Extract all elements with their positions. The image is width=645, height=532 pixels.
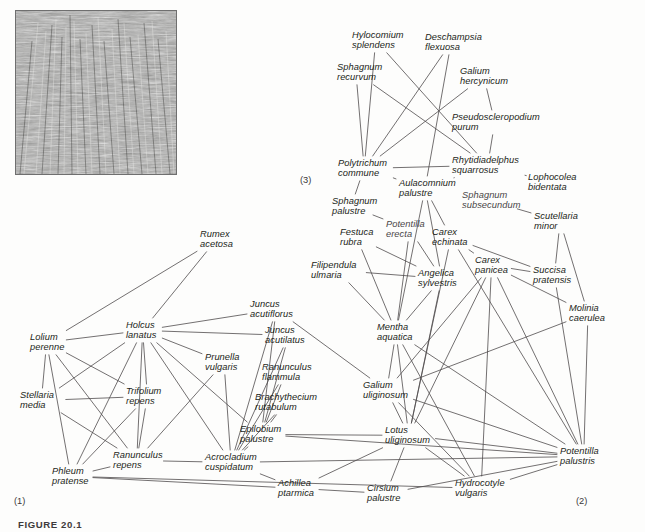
association-edge [487,89,492,110]
association-edge [93,467,110,471]
species-label-lophocolea-bidentata: Lophocolea bidentata [528,172,577,193]
association-edge [490,135,493,153]
species-label-holcus-lanatus: Holcus lanatus [126,320,156,341]
association-edge [59,343,124,388]
association-edge [93,478,275,488]
species-label-stellaria-media: Stellaria media [20,390,54,411]
species-label-brachythecium-rutabulum: Brachythecium rutabulum [255,392,317,413]
species-label-trifolium-repens: Trifolium repens [126,386,161,407]
species-label-hylocomium-splendens: Hylocomium splendens [352,30,404,51]
association-edge [511,269,530,272]
species-label-sphagnum-recurvum: Sphagnum recurvum [337,62,382,83]
association-edge [144,343,147,384]
species-label-aulacomnium-palustre: Aulacomnium palustre [399,178,456,199]
species-label-pseudoscleropodium-purum: Pseudoscleropodium purum [452,112,540,133]
association-edge [389,345,394,378]
association-edge [426,448,465,476]
species-label-juncus-acutiflorus: Juncus acutiflorus [250,299,293,320]
association-edge [225,375,230,450]
species-label-cirsium-palustre: Cirsium palustre [367,483,400,504]
association-edge [556,234,559,263]
species-label-mentha-aquatica: Mentha aquatica [377,322,413,343]
association-edge [162,314,247,327]
association-edge [319,448,383,478]
association-edge [376,247,416,266]
species-label-acrocladium-cuspidatum: Acrocladium cuspidatum [205,452,257,473]
association-edge [43,355,46,388]
species-label-rumex-acetosa: Rumex acetosa [200,229,233,250]
species-label-angelica-sylvestris: Angelica sylvestris [418,268,457,289]
association-edge [403,345,475,476]
association-edge [260,457,557,462]
association-edge [355,181,360,194]
species-label-carex-echinata: Carex echinata [432,227,468,248]
association-edge [66,333,123,340]
association-edge [61,413,117,448]
species-label-carex-panicea: Carex panicea [475,255,508,276]
species-label-galium-hercynicum: Galium hercynicum [460,66,508,87]
association-edge [349,283,384,320]
association-edge [469,250,474,253]
association-edge [432,201,445,225]
association-edge [357,85,363,156]
association-edge [362,250,391,320]
species-label-galium-uliginosum: Galium uliginosum [363,380,408,401]
species-label-achillea-ptarmica: Achillea ptarmica [278,478,314,499]
species-label-scutellaria-minor: Scutellaria minor [534,211,578,232]
association-edge [584,326,588,444]
cluster-tag: (1) [14,496,25,506]
association-edge [393,178,396,179]
species-label-hydrocotyle-vulgaris: Hydrocotyle vulgaris [455,478,505,499]
species-label-potentilla-erecta: Potentilla erecta [386,219,425,240]
species-label-sphagnum-palustre: Sphagnum palustre [332,196,377,217]
species-label-phleum-pratense: Phleum pratense [52,466,89,487]
association-edge [319,490,364,493]
association-edge [482,278,491,476]
species-label-filipendula-ulmaria: Filipendula ulmaria [311,260,357,281]
association-edge [427,55,449,176]
association-edge [162,331,262,334]
cluster-tag: (3) [300,175,311,185]
species-label-juncus-acutilatus: Juncus acutilatus [265,325,305,346]
figure-root: Rumex acetosaHylocomium splendensDescham… [0,0,645,532]
association-edge [415,345,565,444]
species-label-succisa-pratensis: Succisa pratensis [533,265,571,286]
species-label-ranunculus-repens: Ranunculus repens [113,450,163,471]
species-label-deschampsia-flexuosa: Deschampsia flexuosa [425,32,482,53]
association-edge [164,461,203,462]
species-label-epilobium-palustre: Epilobium palustre [240,424,281,445]
species-label-polytrichum-commune: Polytrichum commune [338,158,387,179]
species-label-potentilla-palustris: Potentilla palustris [560,446,599,467]
association-edge [393,166,449,167]
species-label-rhytidiadelphus-squarrosus: Rhytidiadelphus squarrosus [452,155,519,176]
association-edge [391,448,404,481]
association-edge [415,278,486,423]
species-label-festuca-rubra: Festuca rubra [340,227,373,248]
association-edge [286,435,382,436]
association-edge [436,439,558,454]
association-edge [66,251,197,330]
species-label-sphagnum-subsecundum: Sphagnum subsecundum [462,190,520,211]
species-label-molinia-caerulea: Molinia caerulea [569,303,605,324]
association-edge [66,397,123,399]
species-label-ranunculus-flammula: Ranunculus flammula [262,362,312,383]
association-edge [162,338,202,354]
figure-caption: FIGURE 20.1 [18,519,82,530]
association-edge [407,291,432,320]
association-edge [139,409,146,448]
species-label-lotus-uliginosum: Lotus uliginosum [385,425,430,446]
species-label-lolium-perenne: Lolium perenne [30,332,64,353]
association-edge [510,465,557,480]
cluster-tag: (2) [576,496,587,506]
association-edge [373,55,443,156]
association-edge [260,474,275,480]
species-label-prunella-vulgaris: Prunella vulgaris [205,352,240,373]
